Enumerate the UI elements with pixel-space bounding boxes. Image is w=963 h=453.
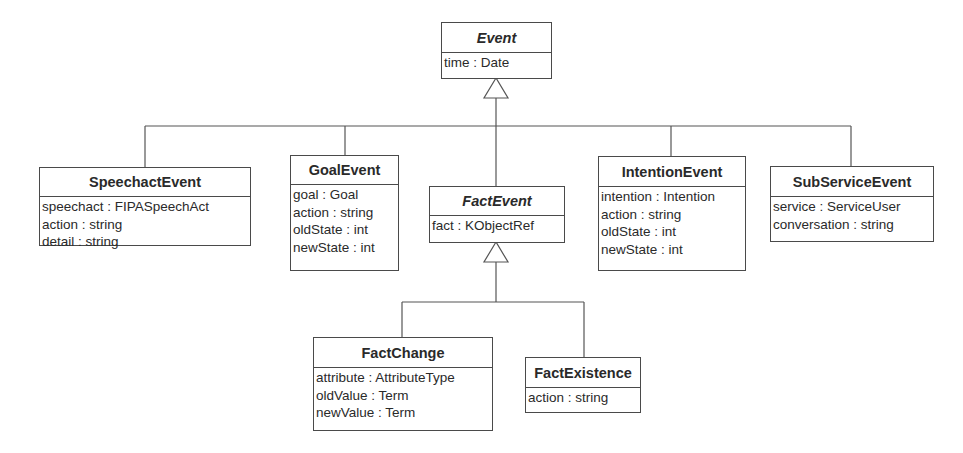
class-name: SubServiceEvent [771,167,933,197]
class-name: IntentionEvent [599,157,745,187]
attribute: conversation : string [773,216,932,234]
attribute: fact : KObjectRef [432,217,563,235]
attribute-list: attribute : AttributeType oldValue : Ter… [314,368,492,424]
class-name: GoalEvent [291,156,398,185]
attribute: newValue : Term [316,404,491,422]
attribute: action : string [293,204,397,222]
attribute: action : string [528,389,639,407]
attribute: action : string [42,216,249,234]
attribute-list: service : ServiceUser conversation : str… [771,197,933,235]
class-name: FactExistence [526,358,640,388]
attribute: newState : int [293,239,397,257]
attribute: newState : int [601,241,744,259]
class-name: SpeechactEvent [40,168,250,197]
class-fact-change: FactChange attribute : AttributeType old… [313,337,493,431]
attribute: oldValue : Term [316,387,491,405]
class-goal-event: GoalEvent goal : Goal action : string ol… [290,155,399,271]
class-speechact-event: SpeechactEvent speechact : FIPASpeechAct… [39,167,251,246]
attribute: oldState : int [601,223,744,241]
class-name: FactChange [314,338,492,368]
class-event: Event time : Date [441,22,552,79]
attribute-list: fact : KObjectRef [430,216,564,237]
class-intention-event: IntentionEvent intention : Intention act… [598,156,746,271]
inheritance-arrow-icon [484,78,508,98]
attribute: attribute : AttributeType [316,369,491,387]
attribute: intention : Intention [601,188,744,206]
attribute-list: goal : Goal action : string oldState : i… [291,185,398,258]
attribute: goal : Goal [293,186,397,204]
attribute-list: speechact : FIPASpeechAct action : strin… [40,197,250,253]
attribute: speechact : FIPASpeechAct [42,198,249,216]
inheritance-arrow-icon [484,242,508,262]
attribute: oldState : int [293,221,397,239]
attribute-list: intention : Intention action : string ol… [599,187,745,260]
attribute-list: action : string [526,388,640,409]
uml-class-diagram: Event time : Date SpeechactEvent speecha… [0,0,963,453]
attribute: action : string [601,206,744,224]
class-name: FactEvent [430,187,564,216]
class-subservice-event: SubServiceEvent service : ServiceUser co… [770,166,934,242]
attribute: detail : string [42,233,249,251]
attribute-list: time : Date [442,53,551,74]
class-fact-existence: FactExistence action : string [525,357,641,413]
class-name: Event [442,23,551,53]
attribute: time : Date [444,54,550,72]
attribute: service : ServiceUser [773,198,932,216]
class-fact-event: FactEvent fact : KObjectRef [429,186,565,243]
